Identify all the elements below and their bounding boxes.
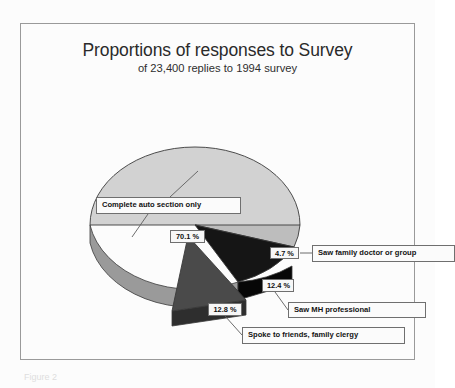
- figure-caption: Figure 2: [24, 372, 57, 382]
- value-label-mh: 12.4 %: [262, 279, 294, 292]
- callout-label-mh: Saw MH professional: [288, 302, 426, 318]
- leader-line-friends: [225, 316, 242, 335]
- slice-top-auto: [90, 147, 300, 234]
- value-label-auto: 70.1 %: [170, 230, 205, 243]
- pie-chart: 70.1 % 4.7 % 12.4 % 12.8 % Complete auto…: [20, 23, 415, 360]
- value-label-doctor: 4.7 %: [270, 247, 299, 259]
- value-label-friends: 12.8 %: [208, 303, 242, 316]
- callout-label-auto: Complete auto section only: [96, 197, 241, 214]
- callout-label-doctor: Saw family doctor or group: [312, 245, 455, 262]
- callout-label-friends: Spoke to friends, family clergy: [242, 327, 405, 344]
- leader-line-mh: [275, 292, 288, 310]
